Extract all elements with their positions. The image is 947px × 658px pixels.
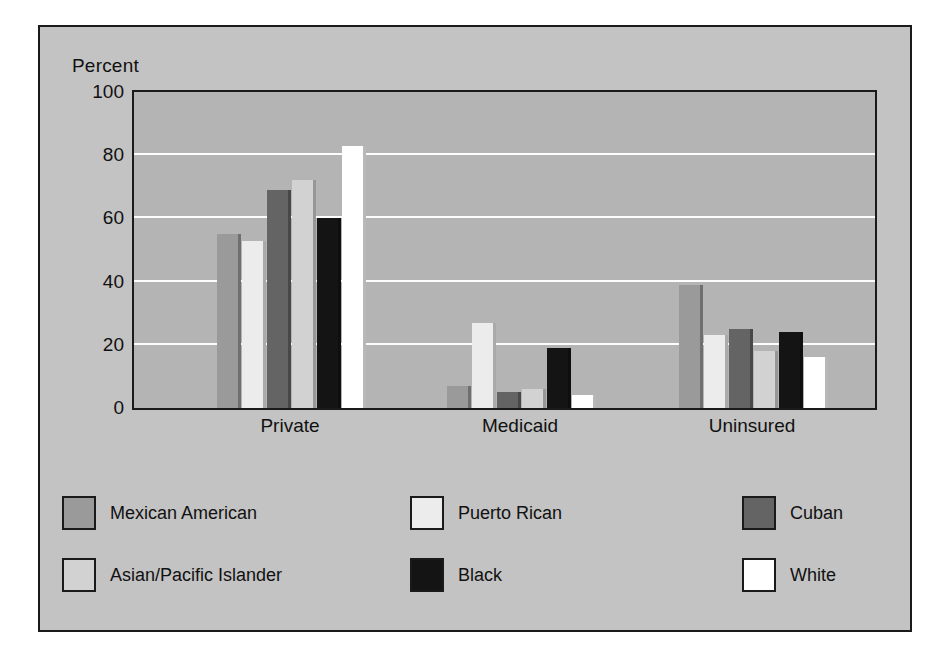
bar[interactable] <box>547 348 571 408</box>
bar[interactable] <box>704 335 728 408</box>
bar[interactable] <box>242 241 266 408</box>
bar-group-uninsured <box>679 92 829 408</box>
bar-slot <box>317 92 342 408</box>
legend-label: White <box>790 565 836 586</box>
bar-slot <box>704 92 729 408</box>
bar[interactable] <box>572 395 596 408</box>
bar[interactable] <box>317 218 341 408</box>
bar[interactable] <box>804 357 828 408</box>
legend-swatch <box>742 558 776 592</box>
legend-label: Asian/Pacific Islander <box>110 565 282 586</box>
bar[interactable] <box>754 351 778 408</box>
bar-slot <box>547 92 572 408</box>
bar[interactable] <box>679 285 703 408</box>
bar-group-medicaid <box>447 92 597 408</box>
y-tick-label: 0 <box>54 397 124 419</box>
legend-item-mexican-american[interactable]: Mexican American <box>62 482 257 544</box>
chart-legend: Mexican AmericanPuerto RicanCubanAsian/P… <box>62 482 892 612</box>
y-tick-label: 20 <box>54 334 124 356</box>
x-tick-label-medicaid: Medicaid <box>482 415 558 437</box>
bar[interactable] <box>447 386 471 408</box>
bar-slot <box>447 92 472 408</box>
y-tick-label: 40 <box>54 271 124 293</box>
bar-slot <box>679 92 704 408</box>
bar[interactable] <box>779 332 803 408</box>
y-axis-title: Percent <box>72 55 139 77</box>
bar-slot <box>729 92 754 408</box>
bar[interactable] <box>217 234 241 408</box>
bar-slot <box>779 92 804 408</box>
bar[interactable] <box>267 190 291 408</box>
legend-item-cuban[interactable]: Cuban <box>742 482 843 544</box>
legend-label: Mexican American <box>110 503 257 524</box>
bar[interactable] <box>729 329 753 408</box>
legend-row: Mexican AmericanPuerto RicanCuban <box>62 482 892 544</box>
bar-slot <box>754 92 779 408</box>
legend-item-asian-pacific-islander[interactable]: Asian/Pacific Islander <box>62 544 282 606</box>
y-tick-label: 80 <box>54 144 124 166</box>
legend-label: Black <box>458 565 502 586</box>
bar-slot <box>497 92 522 408</box>
plot-area <box>132 90 877 410</box>
legend-item-black[interactable]: Black <box>410 544 502 606</box>
legend-swatch <box>62 496 96 530</box>
bar-slot <box>217 92 242 408</box>
bar-group-private <box>217 92 367 408</box>
chart-figure: Percent 020406080100 PrivateMedicaidUnin… <box>38 25 912 632</box>
legend-row: Asian/Pacific IslanderBlackWhite <box>62 544 892 606</box>
legend-swatch <box>410 558 444 592</box>
bar[interactable] <box>472 323 496 408</box>
legend-swatch <box>410 496 444 530</box>
bar[interactable] <box>292 180 316 408</box>
x-axis-tick-labels: PrivateMedicaidUninsured <box>132 415 877 443</box>
bar-slot <box>804 92 829 408</box>
legend-item-puerto-rican[interactable]: Puerto Rican <box>410 482 562 544</box>
bar-slot <box>267 92 292 408</box>
x-tick-label-uninsured: Uninsured <box>709 415 796 437</box>
bar-slot <box>572 92 597 408</box>
legend-label: Puerto Rican <box>458 503 562 524</box>
x-tick-label-private: Private <box>260 415 319 437</box>
bar[interactable] <box>497 392 521 408</box>
y-axis-tick-labels: 020406080100 <box>50 90 124 410</box>
legend-swatch <box>62 558 96 592</box>
y-tick-label: 100 <box>54 81 124 103</box>
bar-slot <box>342 92 367 408</box>
bar-slot <box>242 92 267 408</box>
bar[interactable] <box>342 146 366 408</box>
bar-slot <box>472 92 497 408</box>
bar[interactable] <box>522 389 546 408</box>
legend-item-white[interactable]: White <box>742 544 836 606</box>
bar-slot <box>522 92 547 408</box>
legend-swatch <box>742 496 776 530</box>
legend-label: Cuban <box>790 503 843 524</box>
bar-slot <box>292 92 317 408</box>
y-tick-label: 60 <box>54 207 124 229</box>
